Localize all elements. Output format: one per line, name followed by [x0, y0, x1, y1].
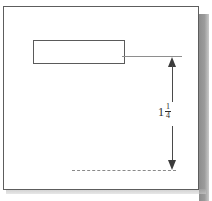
dimension-fraction: 1 4: [165, 103, 171, 121]
dimension-value-label: 1 1 4: [157, 102, 172, 122]
lower-extension-line: [72, 170, 176, 171]
part-rectangle-outline: [33, 40, 125, 64]
dimension-fraction-numerator: 1: [165, 103, 171, 111]
dimension-arrowhead-down-icon: [168, 160, 176, 170]
dimension-whole-number: 1: [158, 106, 165, 118]
drawing-page: 1 1 4: [0, 0, 212, 201]
scan-shadow-right-edge: [199, 14, 209, 201]
dimension-shaft-upper: [172, 65, 173, 102]
dimension-fraction-denominator: 4: [165, 111, 171, 120]
dimension-shaft-lower: [172, 126, 173, 162]
